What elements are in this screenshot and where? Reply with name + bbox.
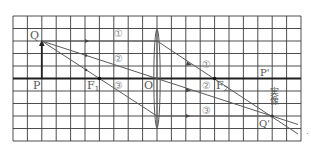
label-p: P: [33, 79, 41, 92]
arrow-icon: [85, 39, 89, 43]
label-o: O: [144, 79, 153, 92]
ray-label-right-1: ①: [202, 59, 211, 70]
ray-label-right-2: ②: [202, 80, 211, 91]
label-q: Q: [30, 29, 39, 42]
label-f1: F1: [87, 79, 99, 93]
lens-ray-diagram: Q P F1 O F2 P' Q' ① ② ③ ① ② ③ 実像 .: [0, 0, 311, 152]
focal-point-f1: [98, 77, 102, 81]
object-arrow: [39, 40, 45, 79]
real-image-label: 実像: [269, 86, 279, 105]
ray-label-left-3: ③: [114, 80, 123, 91]
label-p-prime: P': [260, 67, 269, 78]
arrow-icon: [85, 54, 88, 57]
label-q-prime: Q': [259, 118, 270, 129]
arrow-icon: [186, 114, 190, 118]
image-point-q-prime: [271, 114, 274, 117]
ray-label-right-3: ③: [202, 105, 211, 116]
ray-label-left-2: ②: [114, 53, 123, 64]
arrow-icon: [85, 69, 88, 72]
ray-label-left-1: ①: [114, 28, 123, 39]
label-f2: F2: [216, 79, 228, 93]
trailing-mark: .: [306, 127, 309, 136]
